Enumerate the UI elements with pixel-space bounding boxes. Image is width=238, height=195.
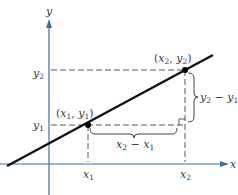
y2-tick-label: y2 (32, 67, 44, 81)
y-axis-arrow-icon (46, 19, 52, 28)
point-2-label: (x2, y2) (154, 52, 192, 66)
y-axis (46, 19, 52, 195)
right-angle-marker (179, 119, 185, 125)
x-axis (0, 161, 229, 167)
run-brace-icon (90, 128, 177, 138)
x1-tick-label: x1 (83, 168, 94, 182)
x-axis-label: x (230, 158, 237, 171)
slope-diagram: y x (x1, y1) (x2, y2) y2 y1 x1 x2 y2 − y… (0, 0, 238, 195)
rise-label: y2 − y1 (199, 91, 238, 105)
point-1-label: (x1, y1) (56, 107, 94, 121)
point-1 (85, 122, 91, 128)
run-label: x2 − x1 (116, 138, 154, 152)
y1-tick-label: y1 (32, 119, 44, 133)
y-axis-label: y (45, 5, 53, 18)
x-axis-arrow-icon (220, 161, 229, 167)
x2-tick-label: x2 (180, 168, 191, 182)
rise-brace-icon (188, 73, 198, 122)
point-2 (182, 67, 188, 73)
